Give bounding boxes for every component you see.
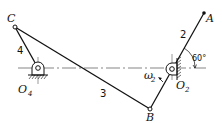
linkage-diagram: C 4 O 4 3 2 A 60° ω 2 O 2 B <box>0 0 222 123</box>
ground-support-o4 <box>28 57 48 84</box>
label-o2: O <box>176 79 185 92</box>
label-o2-sub: 2 <box>184 86 190 94</box>
label-link-3: 3 <box>100 88 106 99</box>
label-o4-sub: 4 <box>27 90 32 98</box>
label-c: C <box>7 12 16 25</box>
label-b: B <box>145 111 154 123</box>
omega-arrowhead-icon <box>158 77 162 80</box>
pivot-o2-icon <box>170 67 175 72</box>
joint-c-icon <box>13 25 17 29</box>
label-angle: 60° <box>192 54 206 63</box>
label-link-2: 2 <box>180 29 186 40</box>
label-o4: O <box>18 83 27 96</box>
label-omega-sub: 2 <box>150 76 156 84</box>
label-a: A <box>205 12 214 25</box>
label-link-4: 4 <box>17 45 23 56</box>
pivot-o4-icon <box>36 66 41 71</box>
